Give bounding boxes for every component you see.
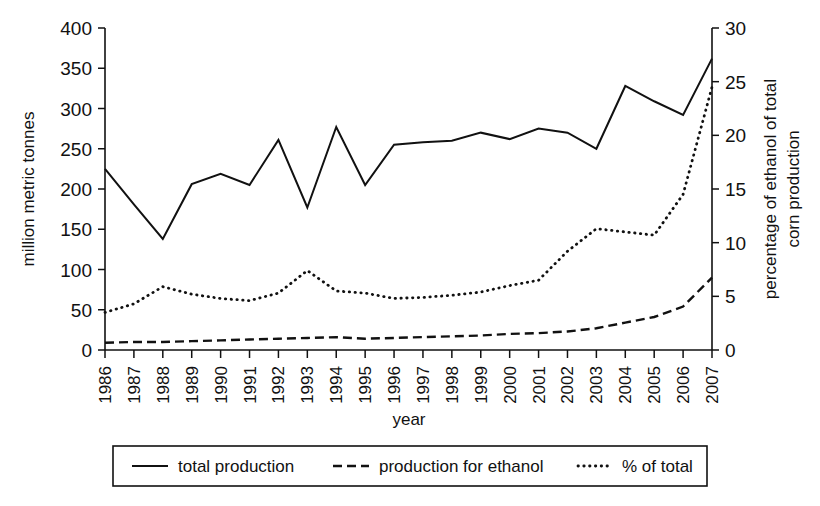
series-group — [105, 59, 712, 343]
y-axis-left-tick-label: 0 — [81, 340, 92, 361]
x-axis-tick-label: 1999 — [472, 366, 491, 404]
x-axis-tick-label: 2002 — [558, 366, 577, 404]
x-axis-tick-label: 1998 — [443, 366, 462, 404]
y-axis-right-tick-label: 10 — [725, 233, 746, 254]
x-axis-tick-label: 1997 — [414, 366, 433, 404]
x-axis-tick-label: 1993 — [298, 366, 317, 404]
y-axis-right-title-line1: percentage of ethanol of total — [761, 79, 780, 299]
y-axis-left-tick-label: 50 — [71, 300, 92, 321]
x-axis-tick-label: 1988 — [154, 366, 173, 404]
y-axis-left-tick-label: 250 — [60, 139, 92, 160]
y-axis-left-tick-label: 150 — [60, 219, 92, 240]
x-axis-tick-label: 1989 — [183, 366, 202, 404]
x-axis-tick-label: 2000 — [501, 366, 520, 404]
chart-container: 050100150200250300350400 051015202530 19… — [0, 0, 820, 506]
legend-label-percent-of-total: % of total — [622, 457, 693, 476]
series-percent-of-total — [105, 87, 712, 312]
legend-label-production-for-ethanol: production for ethanol — [379, 457, 543, 476]
x-axis-tick-label: 2004 — [616, 366, 635, 404]
y-axis-left-tick-label: 100 — [60, 260, 92, 281]
x-axis-tick-label: 2001 — [530, 366, 549, 404]
chart-legend: total production production for ethanol … — [113, 446, 707, 486]
y-axis-right-tick-label: 0 — [725, 340, 736, 361]
y-axis-left-ticks: 050100150200250300350400 — [60, 18, 105, 361]
chart-figure: 050100150200250300350400 051015202530 19… — [0, 0, 820, 506]
axes-group — [105, 28, 712, 350]
x-axis-tick-label: 1996 — [385, 366, 404, 404]
y-axis-left-tick-label: 350 — [60, 58, 92, 79]
x-axis-title: year — [392, 410, 425, 429]
y-axis-left-tick-label: 200 — [60, 179, 92, 200]
x-axis-tick-label: 2007 — [703, 366, 722, 404]
y-axis-left-tick-label: 400 — [60, 18, 92, 39]
y-axis-right-tick-label: 5 — [725, 286, 736, 307]
x-axis-tick-label: 1987 — [125, 366, 144, 404]
x-axis-tick-label: 2003 — [587, 366, 606, 404]
x-axis-tick-label: 1995 — [356, 366, 375, 404]
y-axis-right-tick-label: 15 — [725, 179, 746, 200]
x-axis-tick-label: 1986 — [96, 366, 115, 404]
y-axis-right-tick-label: 20 — [725, 125, 746, 146]
series-total-production — [105, 59, 712, 239]
y-axis-right-tick-label: 30 — [725, 18, 746, 39]
x-axis-ticks: 1986198719881989199019911992199319941995… — [96, 350, 722, 404]
y-axis-right-ticks: 051015202530 — [712, 18, 746, 361]
x-axis-tick-label: 1994 — [327, 366, 346, 404]
y-axis-right-tick-label: 25 — [725, 72, 746, 93]
x-axis-tick-label: 1990 — [212, 366, 231, 404]
legend-label-total-production: total production — [178, 457, 294, 476]
x-axis-tick-label: 1992 — [269, 366, 288, 404]
y-axis-right-title-line2: corn production — [784, 130, 803, 247]
y-axis-left-tick-label: 300 — [60, 99, 92, 120]
x-axis-tick-label: 2005 — [645, 366, 664, 404]
series-production-for-ethanol — [105, 278, 712, 343]
x-axis-tick-label: 1991 — [241, 366, 260, 404]
y-axis-left-title: million metric tonnes — [19, 112, 38, 267]
x-axis-tick-label: 2006 — [674, 366, 693, 404]
